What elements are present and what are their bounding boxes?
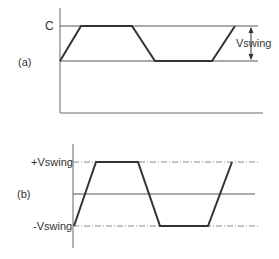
panel-a-top-level-label: C: [45, 19, 54, 33]
panel-a-waveform: [60, 26, 235, 61]
arrow-down-icon: [249, 54, 254, 60]
panel-a-vswing-label: Vswing: [236, 37, 271, 49]
waveform-diagram: C (a) Vswing +Vswing (b) -Vswing: [0, 0, 279, 259]
panel-a-label: (a): [18, 56, 31, 68]
panel-b-label: (b): [17, 188, 30, 200]
panel-b: +Vswing (b) -Vswing: [17, 144, 258, 248]
arrow-up-icon: [249, 27, 254, 33]
panel-b-positive-label: +Vswing: [31, 156, 73, 168]
panel-b-negative-label: -Vswing: [33, 220, 72, 232]
panel-a: C (a) Vswing: [18, 8, 271, 113]
